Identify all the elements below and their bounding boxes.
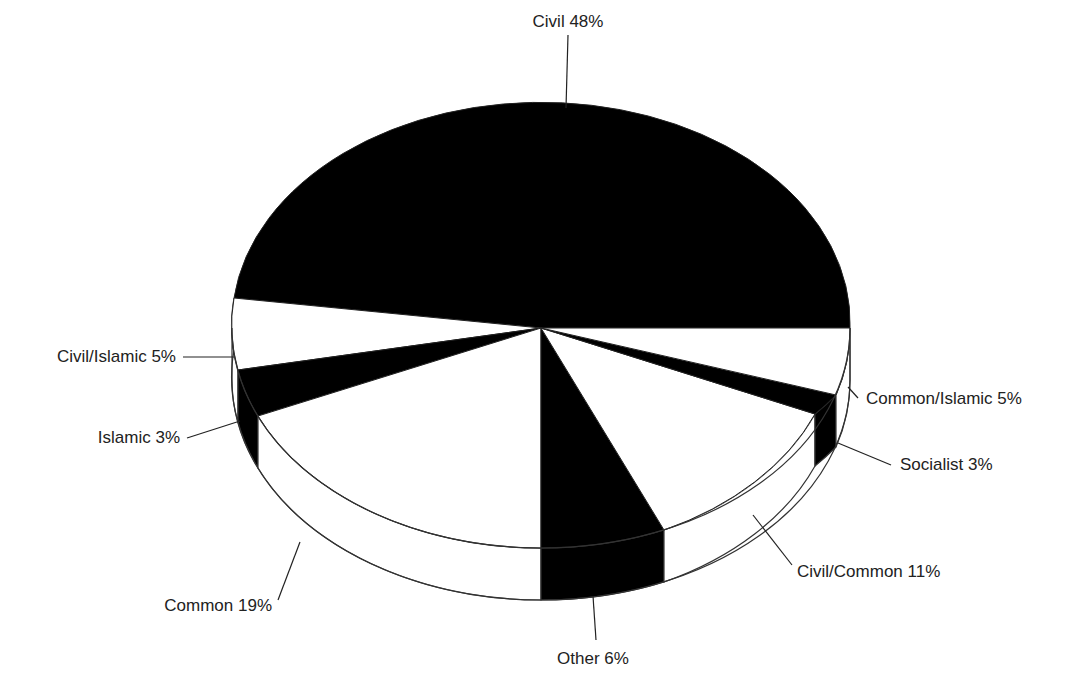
label-common: Common 19% [164, 596, 272, 615]
leader-line-civil [566, 35, 568, 108]
leader-line-other [593, 596, 596, 640]
leader-line-common [278, 542, 300, 600]
label-civ_islamic: Civil/Islamic 5% [57, 347, 176, 366]
label-other: Other 6% [557, 649, 629, 668]
slice-civil [234, 102, 850, 328]
leader-line-civ_common [753, 515, 792, 565]
label-com_islamic: Common/Islamic 5% [866, 389, 1022, 408]
label-islamic: Islamic 3% [98, 428, 180, 447]
leader-line-islamic [187, 421, 240, 438]
pie-chart: Civil 48%Civil/Islamic 5%Islamic 3%Commo… [0, 0, 1079, 692]
leader-line-socialist [838, 443, 891, 465]
label-civil: Civil 48% [533, 12, 604, 31]
label-civ_common: Civil/Common 11% [797, 562, 940, 581]
label-socialist: Socialist 3% [900, 455, 993, 474]
